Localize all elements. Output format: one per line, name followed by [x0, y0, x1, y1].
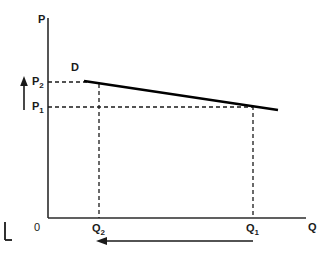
y-axis-label: P — [38, 14, 45, 25]
price-label-p1-sub: 1 — [39, 106, 43, 115]
quantity-label-q2: Q2 — [92, 223, 105, 237]
diagram-svg — [0, 0, 328, 258]
quantity-label-q2-text: Q — [92, 222, 101, 234]
x-axis-label: Q — [308, 222, 317, 233]
demand-curve-line — [84, 81, 278, 110]
origin-label: 0 — [34, 222, 40, 233]
price-label-p1: P1 — [32, 101, 44, 115]
price-label-p2-sub: 2 — [39, 81, 43, 90]
corner-bracket-mark — [5, 222, 12, 240]
price-increase-arrow — [20, 76, 28, 110]
quantity-label-q1-sub: 1 — [255, 228, 259, 237]
price-label-p2: P2 — [32, 76, 44, 90]
quantity-label-q1: Q1 — [246, 223, 259, 237]
quantity-decrease-arrow — [96, 237, 253, 245]
quantity-label-q1-text: Q — [246, 222, 255, 234]
diagram-canvas: P Q 0 D P2 P1 Q2 Q1 — [0, 0, 328, 258]
quantity-label-q2-sub: 2 — [101, 228, 105, 237]
demand-curve-label: D — [71, 62, 79, 73]
